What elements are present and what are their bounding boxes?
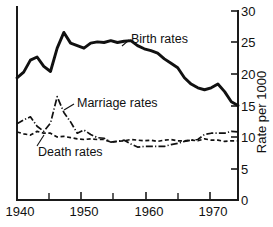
annotation-marriage-rates: Marriage rates xyxy=(77,96,158,110)
annotation-birth-rates: Birth rates xyxy=(131,32,188,46)
x-tick-label-1950: 1950 xyxy=(70,204,99,219)
line-chart-vital-rates: 1940 1950 1960 1970 30 25 20 15 10 5 0 R… xyxy=(0,0,273,227)
x-tick-label-1960: 1960 xyxy=(135,204,164,219)
y-tick-label-0: 0 xyxy=(241,193,248,208)
series-line-death-rates xyxy=(17,131,238,142)
annotation-death-rates: Death rates xyxy=(38,145,103,159)
y-tick-label-25: 25 xyxy=(241,35,255,50)
y-tick-label-30: 30 xyxy=(241,4,255,19)
y-tick-label-5: 5 xyxy=(241,162,248,177)
chart-svg: 1940 1950 1960 1970 30 25 20 15 10 5 0 R… xyxy=(0,0,273,227)
marriage-label-leader xyxy=(64,104,74,110)
y-axis-title: Rate per 1000 xyxy=(254,71,269,153)
x-tick-label-1940: 1940 xyxy=(6,204,35,219)
x-axis-ticks xyxy=(17,192,210,200)
series-line-birth-rates xyxy=(17,32,238,105)
x-tick-label-1970: 1970 xyxy=(199,204,228,219)
